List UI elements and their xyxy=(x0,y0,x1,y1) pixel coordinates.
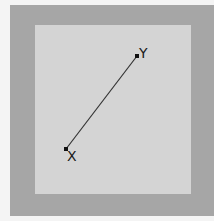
diagram-canvas: X Y xyxy=(0,0,214,221)
segment-xy xyxy=(66,56,137,149)
label-x: X xyxy=(67,148,77,164)
label-y: Y xyxy=(138,45,148,61)
